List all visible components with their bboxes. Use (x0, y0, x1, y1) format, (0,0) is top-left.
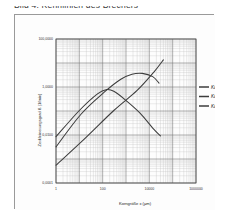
x-tick-label: 1 (55, 187, 57, 191)
legend-label: Kammer 3 (211, 104, 215, 109)
y-tick-label: 0,0001 (42, 181, 53, 185)
legend-label: Kammer 1 (211, 85, 215, 90)
legend-label: Kammer 2 (211, 94, 215, 99)
y-tick-label: 0,0100 (42, 133, 53, 137)
log-log-chart: 0,00010,01001,0000100,0000 1100100001000… (15, 15, 215, 210)
x-axis-title: Korngröße x (µm) (119, 201, 152, 206)
x-tick-label: 1000000 (189, 187, 203, 191)
y-tick-label: 1,0000 (42, 85, 53, 89)
x-tick-label: 10000 (144, 187, 154, 191)
y-tick-label: 100,0000 (38, 37, 53, 41)
figure-container: 0,00010,01001,0000100,0000 1100100001000… (14, 14, 214, 209)
y-axis-title: Zerkleinerungsgrad ß (1/min) (37, 93, 42, 146)
chart-plot: 0,00010,01001,0000100,0000 1100100001000… (15, 15, 215, 210)
x-tick-label: 100 (100, 187, 106, 191)
figure-caption: Bild 4: Kennlinien des Brechers (14, 0, 224, 13)
